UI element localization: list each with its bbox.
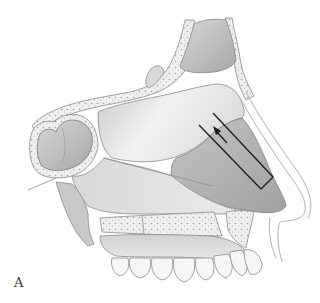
pterygoid-line (28, 178, 56, 190)
panel-label: A (14, 276, 23, 289)
anatomy-illustration: A (0, 0, 320, 303)
sphenoid-sinus (30, 114, 99, 178)
